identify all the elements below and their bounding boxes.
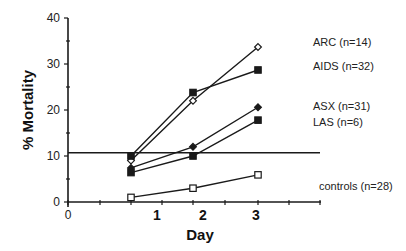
axes: 0102030400123 <box>47 11 321 223</box>
series-2 <box>128 104 262 172</box>
legend-label: controls (n=28) <box>319 180 393 192</box>
series-line <box>131 47 258 161</box>
open-square-marker <box>190 185 196 191</box>
filled-square-marker <box>128 169 134 175</box>
x-tick-label: 2 <box>199 207 207 223</box>
filled-square-marker <box>128 153 134 159</box>
open-square-marker <box>128 194 134 200</box>
filled-diamond-marker <box>255 104 262 111</box>
open-square-marker <box>255 172 261 178</box>
filled-square-marker <box>255 67 261 73</box>
legend-label: LAS (n=6) <box>313 116 363 128</box>
y-tick-label: 0 <box>53 195 60 209</box>
legend-label: ASX (n=31) <box>313 100 370 112</box>
filled-square-marker <box>255 117 261 123</box>
y-tick-label: 30 <box>47 57 61 71</box>
x-tick-label: 0 <box>65 208 72 222</box>
y-tick-label: 20 <box>47 103 61 117</box>
x-tick-label: 3 <box>252 207 260 223</box>
y-axis-title: % Mortality <box>19 69 36 150</box>
series-group <box>128 44 262 201</box>
x-axis-title: Day <box>186 226 214 243</box>
legend: ARC (n=14)AIDS (n=32)ASX (n=31)LAS (n=6)… <box>313 36 393 192</box>
y-tick-label: 40 <box>47 11 61 25</box>
y-tick-label: 10 <box>47 149 61 163</box>
x-tick-label: 1 <box>153 207 161 223</box>
legend-label: ARC (n=14) <box>313 36 371 48</box>
legend-label: AIDS (n=32) <box>313 60 374 72</box>
filled-square-marker <box>190 89 196 95</box>
mortality-line-chart: % Mortality Day 0102030400123 ARC (n=14)… <box>0 0 406 251</box>
filled-square-marker <box>190 153 196 159</box>
filled-diamond-marker <box>190 143 197 150</box>
series-4 <box>128 172 261 201</box>
